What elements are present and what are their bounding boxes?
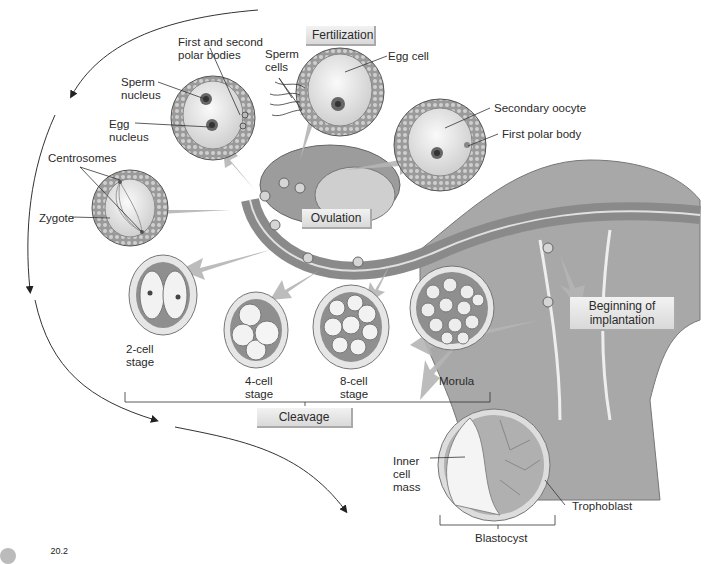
label-blastocyst: Blastocyst <box>475 532 527 545</box>
label-egg-nucleus: Egg nucleus <box>109 118 149 144</box>
zygote <box>92 170 168 246</box>
label-secondary-oocyte: Secondary oocyte <box>494 102 586 115</box>
label-first-polar-body: First polar body <box>502 128 581 141</box>
cycle-arrow-left <box>28 115 55 290</box>
label-centrosomes: Centrosomes <box>48 152 116 165</box>
label-2-cell-stage: 2-cell stage <box>126 343 154 369</box>
label-egg-cell: Egg cell <box>388 50 429 63</box>
morula <box>410 266 494 350</box>
blastocyst <box>438 409 550 521</box>
cycle-arrow-bottom <box>175 427 345 510</box>
label-zygote: Zygote <box>39 212 74 225</box>
figure-number-text: 20.2 <box>50 546 68 556</box>
ovulation-box: Ovulation <box>302 209 372 229</box>
four-cell-stage <box>224 292 288 368</box>
label-inner-cell-mass: Inner cell mass <box>393 455 420 494</box>
label-sperm-cells: Sperm cells <box>265 48 299 74</box>
implantation-box: Beginning of implantation <box>570 297 676 331</box>
label-4-cell-stage: 4-cell stage <box>245 375 273 401</box>
label-sperm-nucleus: Sperm nucleus <box>121 76 161 102</box>
cleavage-box: Cleavage <box>257 408 353 428</box>
label-polar-bodies: First and second polar bodies <box>178 36 263 62</box>
fertilized-egg <box>171 76 255 160</box>
eight-cell-stage <box>313 285 389 369</box>
figure-badge-icon <box>0 548 16 564</box>
secondary-oocyte <box>394 99 486 191</box>
fertilization-box: Fertilization <box>306 26 376 46</box>
label-trophoblast: Trophoblast <box>572 500 632 513</box>
figure-number: 20.2 <box>0 546 68 564</box>
label-8-cell-stage: 8-cell stage <box>340 375 368 401</box>
label-morula: Morula <box>439 375 474 388</box>
two-cell-stage <box>129 255 197 335</box>
